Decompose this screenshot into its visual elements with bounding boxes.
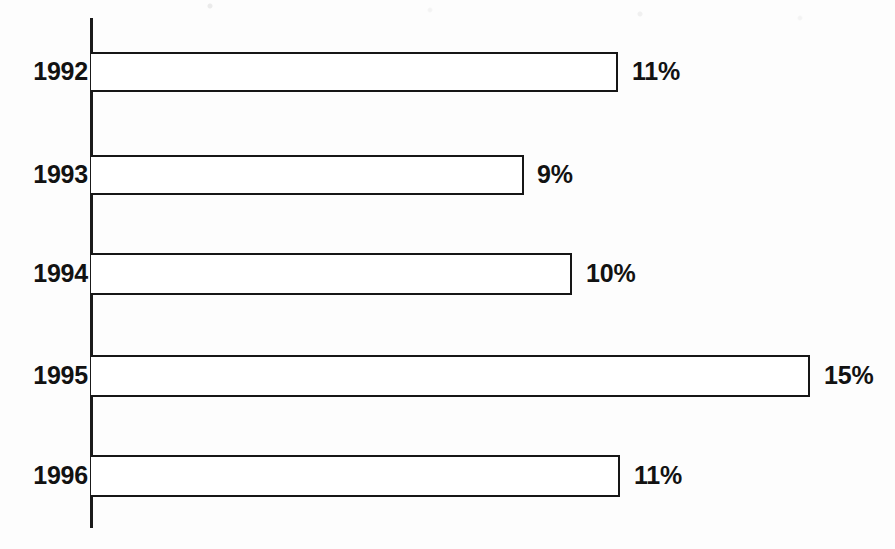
bar-1992 [91,52,618,92]
category-label-1993: 1993 [33,160,88,189]
category-label-1992: 1992 [33,57,88,86]
category-label-1995: 1995 [33,361,88,390]
bar-1995 [91,355,810,397]
category-label-1994: 1994 [33,259,88,288]
bar-1996 [91,455,620,497]
bar-chart: 1992 11% 1993 9% 1994 10% 1995 15% 1996 … [0,0,895,549]
bar-value-1992: 11% [632,57,680,86]
bar-1993 [91,155,524,195]
bar-value-1993: 9% [537,160,573,189]
bar-value-1995: 15% [824,361,873,390]
category-label-1996: 1996 [33,461,88,490]
bar-value-1994: 10% [586,259,635,288]
bar-value-1996: 11% [634,461,682,490]
bar-1994 [91,253,572,295]
plot-area: 1992 11% 1993 9% 1994 10% 1995 15% 1996 … [0,0,895,549]
